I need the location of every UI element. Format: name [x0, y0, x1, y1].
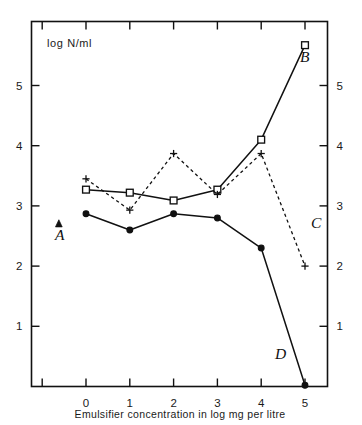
marker-filled-circle: [127, 227, 133, 233]
marker-open-square: [126, 189, 133, 196]
x-tick-label: 4: [258, 397, 265, 409]
y-tick-label-left: 5: [16, 80, 22, 92]
x-axis-caption: Emulsifier concentration in log mg per l…: [75, 408, 286, 420]
marker-open-square: [258, 136, 265, 143]
y-tick-label-left: 1: [16, 320, 22, 332]
series-label-a: A: [54, 226, 65, 243]
top-axis-ticks: [42, 22, 305, 30]
series-line-c: [86, 154, 305, 267]
series-label-b: B: [300, 48, 310, 65]
series-line-d: [86, 214, 305, 386]
x-tick-label: 2: [170, 397, 176, 409]
series-line-b: [86, 45, 305, 200]
y-axis-caption: log N/ml: [47, 37, 92, 49]
y-tick-label-right: 5: [337, 80, 343, 92]
x-axis-ticks: [42, 379, 305, 387]
series-label-c: C: [311, 214, 322, 231]
x-tick-label: 0: [83, 397, 89, 409]
marker-filled-circle: [258, 245, 264, 251]
x-tick-label: 5: [302, 397, 308, 409]
x-tick-label: 1: [127, 397, 133, 409]
y-tick-label-right: 4: [337, 140, 344, 152]
right-axis-tick-labels: 12345: [337, 80, 344, 333]
y-tick-label-left: 2: [16, 260, 22, 272]
figure-container: 12345 12345 012345 log N/ml A B C D Emul…: [0, 0, 362, 425]
y-tick-label-left: 4: [16, 140, 23, 152]
y-tick-label-left: 3: [16, 200, 22, 212]
marker-open-square: [170, 197, 177, 204]
series-c: [82, 150, 308, 270]
y-tick-label-right: 2: [337, 260, 343, 272]
marker-open-square: [83, 186, 90, 193]
y-tick-label-right: 3: [337, 200, 343, 212]
series-label-d: D: [274, 345, 286, 362]
marker-filled-circle: [171, 211, 177, 217]
left-axis-tick-labels: 12345: [16, 80, 23, 333]
series-b: [83, 42, 309, 204]
x-axis-tick-labels: 012345: [83, 397, 308, 409]
marker-filled-circle: [215, 215, 221, 221]
left-axis-ticks: [32, 86, 40, 327]
right-axis-ticks: [320, 86, 328, 327]
plot-frame: [32, 22, 328, 387]
marker-filled-circle: [83, 211, 89, 217]
marker-filled-circle: [302, 382, 308, 388]
line-chart: 12345 12345 012345 log N/ml A B C D Emul…: [0, 0, 362, 425]
y-tick-label-right: 1: [337, 320, 343, 332]
x-tick-label: 3: [214, 397, 220, 409]
